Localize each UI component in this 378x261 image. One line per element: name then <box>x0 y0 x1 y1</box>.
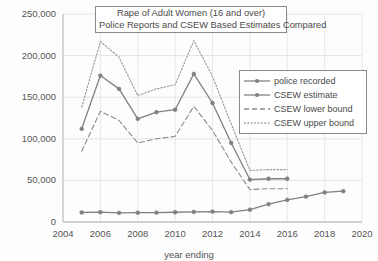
x-axis-title: year ending <box>0 249 378 260</box>
data-point <box>173 210 177 214</box>
chart-container: 050,000100,000150,000200,000250,000 2004… <box>0 0 378 261</box>
y-tick-label: 250,000 <box>0 8 56 19</box>
data-point <box>98 210 102 214</box>
data-point <box>285 177 289 181</box>
chart-title-line2: Police Reports and CSEW Based Estimates … <box>99 20 283 32</box>
y-tick-label: 200,000 <box>0 50 56 61</box>
x-tick-label: 2020 <box>342 228 378 239</box>
data-point <box>155 211 159 215</box>
x-tick-label: 2018 <box>305 228 345 239</box>
x-tick-label: 2012 <box>193 228 233 239</box>
data-point <box>117 211 121 215</box>
legend-label: CSEW estimate <box>274 90 338 100</box>
legend-swatch-icon <box>243 75 271 87</box>
legend-label: CSEW lower bound <box>274 104 353 114</box>
data-point <box>192 72 196 76</box>
x-tick-label: 2008 <box>118 228 158 239</box>
chart-legend: police recordedCSEW estimateCSEW lower b… <box>239 70 367 134</box>
data-point <box>136 211 140 215</box>
x-tick-label: 2006 <box>80 228 120 239</box>
data-point <box>173 108 177 112</box>
data-point <box>304 195 308 199</box>
data-point <box>98 74 102 78</box>
data-point <box>341 189 345 193</box>
data-point <box>80 211 84 215</box>
data-point <box>285 198 289 202</box>
legend-label: police recorded <box>274 76 336 86</box>
legend-swatch-icon <box>243 103 271 115</box>
data-point <box>267 177 271 181</box>
legend-swatch-icon <box>243 89 271 101</box>
data-point <box>248 208 252 212</box>
legend-swatch-icon <box>243 117 271 129</box>
data-point <box>155 110 159 114</box>
chart-title: Rape of Adult Women (16 and over) Police… <box>95 6 287 33</box>
data-point <box>229 141 233 145</box>
data-point <box>211 210 215 214</box>
legend-item-2[interactable]: CSEW lower bound <box>243 102 364 116</box>
data-point <box>192 210 196 214</box>
data-point <box>80 127 84 131</box>
data-point <box>248 178 252 182</box>
legend-item-3[interactable]: CSEW upper bound <box>243 116 364 130</box>
data-point <box>267 202 271 206</box>
legend-item-1[interactable]: CSEW estimate <box>243 88 364 102</box>
y-tick-label: 0 <box>0 216 56 227</box>
x-tick-label: 2010 <box>155 228 195 239</box>
x-tick-label: 2014 <box>230 228 270 239</box>
x-tick-label: 2016 <box>267 228 307 239</box>
legend-label: CSEW upper bound <box>274 118 354 128</box>
legend-item-0[interactable]: police recorded <box>243 74 364 88</box>
chart-title-line1: Rape of Adult Women (16 and over) <box>99 8 283 20</box>
data-point <box>229 210 233 214</box>
x-tick-label: 2004 <box>43 228 83 239</box>
data-point <box>117 87 121 91</box>
data-point <box>211 101 215 105</box>
y-tick-label: 50,000 <box>0 174 56 185</box>
data-point <box>136 117 140 121</box>
y-tick-label: 100,000 <box>0 133 56 144</box>
data-point <box>323 191 327 195</box>
y-tick-label: 150,000 <box>0 91 56 102</box>
